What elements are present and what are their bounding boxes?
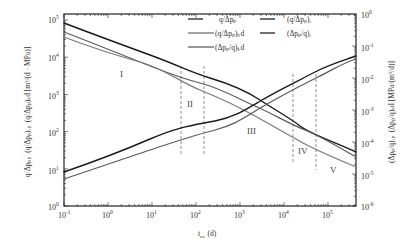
x-axis-title: tca(d) [198, 229, 217, 239]
y-right-tick-label: 10-2 [361, 74, 374, 85]
series-dp-q-sd [64, 59, 356, 179]
y-left-tick-label: 104 [48, 52, 59, 63]
x-tick-label: 104 [278, 209, 289, 220]
legend-label-1: q/Δpₚ [219, 15, 236, 24]
zone-label-5: V [330, 165, 337, 175]
series-q-dp-sd [64, 37, 356, 167]
y-right-tick-label: 10-3 [361, 106, 374, 117]
x-tick-label: 102 [190, 209, 201, 220]
y-right-tick-label: 10-1 [361, 42, 374, 53]
y-left-tick-label: 101 [48, 165, 59, 176]
y-left-tick-label: 105 [48, 14, 59, 25]
y-right-tick-label: 10-4 [361, 138, 374, 149]
x-tick-label: 105 [322, 209, 333, 220]
zone-label-3: III [247, 126, 256, 136]
y-right-tick-label: 10-5 [361, 170, 374, 181]
legend-label-2: (q/Δpₚ)ᵢ [287, 15, 311, 24]
legend-label-5: (Δpₚ/q)ₛd [215, 43, 244, 52]
y-right-axis-title: (Δpₚ/q)ᵢ，(Δpₚ/q)ₛd [MPa/(m³/d)] [387, 61, 396, 163]
legend: q/Δpₚ (q/Δpₚ)ᵢ (q/Δpₚ)ₛd (Δpₚ/q)ᵢ (Δpₚ/q… [188, 15, 311, 52]
plot-area [64, 14, 356, 206]
zone-label-2: II [187, 99, 193, 109]
zone-label-4: IV [298, 146, 308, 156]
y-left-axis-title: q/Δpₚ，(q/Δpₚ)ᵢ，(q/Δpₚ)ₛd [m³/(d · MPa)] [23, 47, 32, 177]
y-right-tick-label: 10-6 [361, 201, 374, 212]
x-tick-label: 101 [146, 209, 157, 220]
y-left-axis-labels: 105 104 103 102 101 100 [48, 14, 59, 212]
axis-ticks [64, 14, 356, 206]
zone-label-1: I [120, 69, 123, 79]
x-tick-label: 103 [234, 209, 245, 220]
legend-label-3: (q/Δpₚ)ₛd [215, 29, 244, 38]
y-left-tick-label: 103 [48, 90, 59, 101]
y-right-tick-label: 100 [361, 9, 372, 20]
y-right-axis-labels: 100 10-1 10-2 10-3 10-4 10-5 10-6 [361, 9, 374, 212]
y-left-tick-label: 102 [48, 127, 59, 138]
x-axis-labels: 10-1 100 101 102 103 104 105 [58, 209, 333, 220]
x-tick-label: 10-1 [58, 209, 71, 220]
x-tick-label: 100 [102, 209, 113, 220]
series-dp-q-i [64, 56, 356, 172]
legend-label-4: (Δpₚ/q)ᵢ [287, 29, 311, 38]
production-analysis-chart: I II III IV V q/Δpₚ (q/Δpₚ)ᵢ (q/Δpₚ)ₛd (… [0, 0, 408, 249]
